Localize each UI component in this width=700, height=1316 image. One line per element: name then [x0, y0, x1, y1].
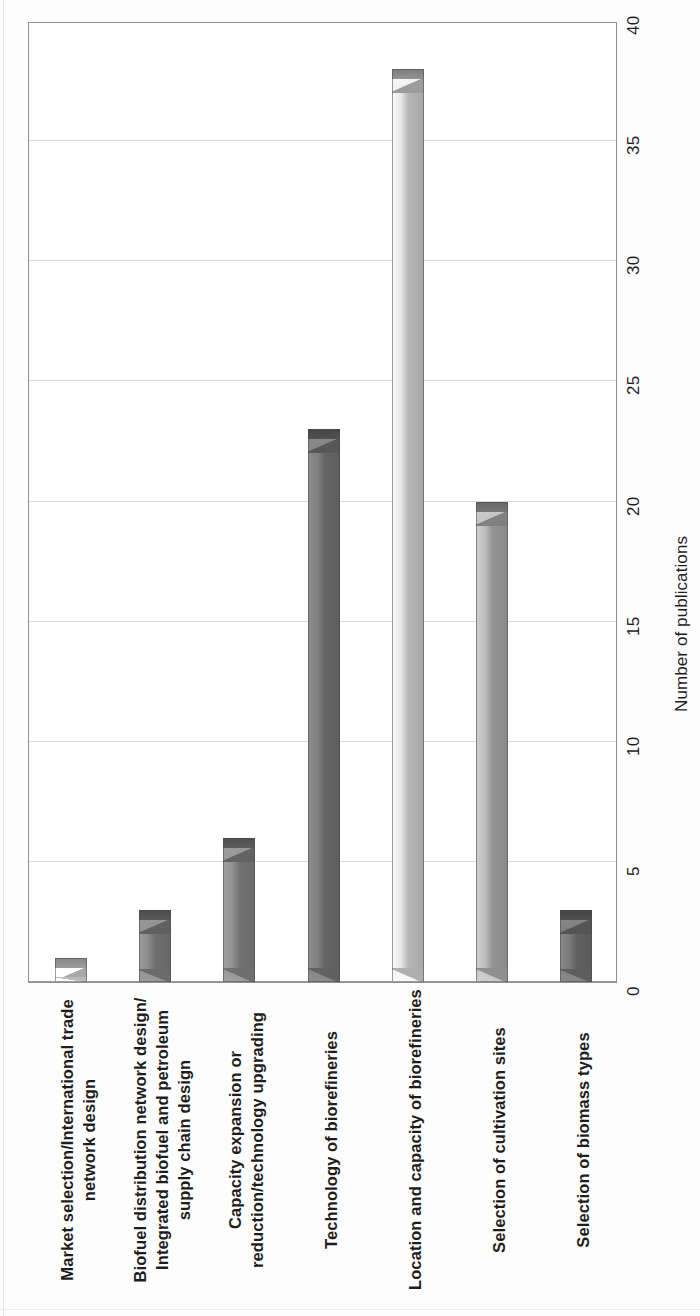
category-label-1: Market selection/International trade net… [56, 990, 100, 1290]
category-label-6: Selection of cultivation sites [488, 990, 510, 1290]
bar-1 [55, 958, 87, 982]
bar-outline [476, 502, 508, 983]
tick-label-40: 40 [624, 0, 644, 35]
value-axis-title: Number of publications [672, 536, 692, 712]
bar-6 [476, 502, 508, 983]
chart-page: 0510152025303540 Number of publications … [0, 0, 700, 1316]
category-label-4: Technology of biorefineries [320, 990, 342, 1290]
bar-7 [560, 910, 592, 982]
category-label-2: Biofuel distribution network design/ Int… [129, 990, 195, 1290]
category-label-3: Capacity expansion or reduction/technolo… [224, 990, 268, 1290]
category-label-7: Selection of biomass types [572, 990, 594, 1290]
bar-outline [55, 958, 87, 982]
bar-4 [308, 429, 340, 982]
tick-label-30: 30 [624, 231, 644, 275]
plot-area [28, 22, 617, 983]
tick-label-10: 10 [624, 712, 644, 756]
tick-label-20: 20 [624, 472, 644, 516]
tick-label-25: 25 [624, 351, 644, 395]
bar-outline [560, 910, 592, 982]
bar-outline [223, 838, 255, 982]
bars-group [29, 23, 616, 982]
bar-outline [308, 429, 340, 982]
tick-label-0: 0 [624, 952, 644, 996]
tick-label-35: 35 [624, 111, 644, 155]
tick-label-15: 15 [624, 592, 644, 636]
category-label-5: Location and capacity of biorefineries [404, 990, 426, 1290]
bar-outline [139, 910, 171, 982]
page-bottom-edge [0, 1309, 700, 1310]
bar-5 [392, 69, 424, 982]
bar-outline [392, 69, 424, 982]
page-left-edge [3, 0, 4, 1316]
tick-label-5: 5 [624, 832, 644, 876]
bar-3 [223, 838, 255, 982]
bar-2 [139, 910, 171, 982]
